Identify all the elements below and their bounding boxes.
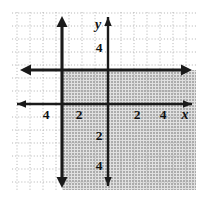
y-tick-label-neg2: 2	[96, 128, 103, 143]
y-tick-label-pos4: 4	[96, 40, 103, 55]
graph-figure: 4 2 2 4 4 2 4 x y	[0, 0, 205, 198]
x-tick-label-neg2: 2	[76, 107, 83, 122]
y-axis-label: y	[93, 17, 102, 32]
coordinate-plane-graph: 4 2 2 4 4 2 4 x y	[0, 0, 205, 198]
x-tick-label-pos4: 4	[160, 107, 167, 122]
y-tick-label-neg4: 4	[96, 158, 103, 173]
x-tick-label-pos2: 2	[134, 107, 141, 122]
x-axis-label: x	[181, 107, 189, 122]
x-tick-label-neg4: 4	[43, 107, 50, 122]
